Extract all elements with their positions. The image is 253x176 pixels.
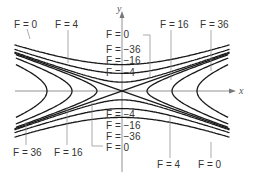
label-top-left-0: F = 0 (14, 19, 38, 30)
label-center-top-0: F = 0 (106, 29, 130, 40)
label-center-bottom-m36: F = −36 (106, 131, 141, 142)
label-top-right-36: F = 36 (200, 19, 229, 30)
label-center-bottom-m4: F = −4 (106, 109, 135, 120)
label-top-right-16: F = 16 (160, 19, 189, 30)
curve-labels: F = 0 F = 4 F = 16 F = 36 F = 0 F = −36 … (13, 19, 229, 170)
label-center-bottom-m16: F = −16 (106, 120, 141, 131)
level-curve-diagram: x y F = 0 F = 4 F = 16 F = 36 F = 0 F = … (0, 0, 253, 176)
x-axis-arrow-icon (229, 89, 236, 94)
y-axis-label: y (116, 3, 122, 14)
label-bottom-right-4: F = 4 (157, 159, 181, 170)
label-bottom-left-16: F = 16 (54, 147, 83, 158)
label-center-top-m16: F = −16 (106, 55, 141, 66)
label-center-bottom-0: F = 0 (106, 142, 130, 153)
label-bottom-left-36: F = 36 (13, 147, 42, 158)
label-bottom-right-0: F = 0 (198, 159, 222, 170)
label-center-top-m36: F = −36 (106, 44, 141, 55)
label-center-top-m4: F = −4 (106, 67, 135, 78)
x-axis-label: x (238, 85, 244, 96)
label-top-left-4: F = 4 (55, 19, 79, 30)
